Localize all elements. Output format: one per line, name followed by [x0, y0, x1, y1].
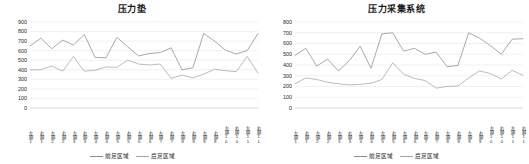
legend-pressure-acq: 前足区域 后足区域 — [264, 152, 529, 160]
x-axis-tick-label: 右脚10 — [499, 126, 504, 144]
y-axis-tick-label: 300 — [283, 73, 292, 79]
x-axis-tick-label: 左脚6 — [136, 131, 141, 144]
x-axis-tick-label: 右脚6 — [147, 131, 152, 144]
x-axis-tick-label: 右脚9 — [212, 131, 217, 144]
series-line-rearfoot — [295, 63, 523, 88]
x-axis-tick-label: 右脚3 — [347, 131, 352, 144]
x-axis-tick-label: 左脚7 — [158, 131, 163, 144]
y-axis-tick-label: 300 — [18, 76, 27, 82]
x-axis-tick-label: 右脚4 — [369, 131, 374, 144]
x-axis-tick-label: 左脚4 — [358, 131, 363, 144]
y-axis-tick-label: 500 — [283, 51, 292, 57]
x-axis-tick-label: 右脚5 — [125, 131, 130, 144]
y-axis-tick-label: 200 — [18, 86, 27, 92]
legend-swatch-forefoot-icon — [90, 156, 103, 157]
y-axis-tick-label: 700 — [283, 30, 292, 36]
series-line-rearfoot — [30, 56, 258, 78]
y-axis-tick-label: 400 — [18, 67, 27, 73]
legend-label-rearfoot: 后足区域 — [151, 152, 175, 160]
y-axis-tick-label: 100 — [18, 95, 27, 101]
x-axis-tick-label: 左脚10 — [223, 126, 228, 144]
y-axis-tick-label: 800 — [283, 20, 292, 25]
y-axis-tick-label: 400 — [283, 62, 292, 68]
x-axis-tick-label: 右脚3 — [82, 131, 87, 144]
chart-title-pressure-acq: 压力采集系统 — [264, 4, 529, 15]
x-axis-tick-label: 左脚1 — [293, 131, 298, 144]
legend-label-rearfoot: 后足区域 — [415, 152, 439, 160]
x-axis-tick-label: 左脚11 — [245, 126, 250, 144]
x-axis-tick-label: 右脚9 — [477, 131, 482, 144]
x-axis-tick-label: 左脚8 — [180, 131, 185, 144]
x-axis-tick-label: 右脚11 — [256, 126, 261, 144]
x-axis-tick-label: 右脚4 — [104, 131, 109, 144]
x-axis-tick-label: 左脚10 — [488, 126, 493, 144]
x-axis-tick-label: 左脚8 — [445, 131, 450, 144]
x-axis-tick-label: 右脚6 — [412, 131, 417, 144]
x-axis-tick-label: 右脚2 — [325, 131, 330, 144]
y-axis-tick-label: 900 — [18, 20, 27, 25]
chart-panel-pressure-acq: 压力采集系统 0100200300400500600700800 左脚1右脚1左… — [264, 0, 529, 164]
legend-swatch-rearfoot-icon — [400, 156, 413, 157]
x-axis-tick-label: 左脚3 — [71, 131, 76, 144]
y-axis-tick-label: 600 — [283, 40, 292, 46]
legend-label-forefoot: 前足区域 — [105, 152, 129, 160]
legend-label-forefoot: 前足区域 — [369, 152, 393, 160]
x-axis-tick-label: 左脚9 — [201, 131, 206, 144]
x-axis-tick-label: 左脚4 — [93, 131, 98, 144]
x-axis-labels-pressure-acq: 左脚1右脚1左脚2右脚2左脚3右脚3左脚4右脚4左脚5右脚5左脚6右脚6左脚7右… — [264, 110, 529, 144]
x-axis-tick-label: 右脚8 — [190, 131, 195, 144]
y-axis-tick-label: 700 — [18, 38, 27, 44]
x-axis-tick-label: 左脚2 — [314, 131, 319, 144]
x-axis-tick-label: 右脚10 — [234, 126, 239, 144]
line-chart-svg-pressure-acq: 0100200300400500600700800 — [264, 20, 529, 110]
charts-board: 压力垫 0100200300400500600700800900 左脚1右脚1左… — [0, 0, 529, 164]
x-axis-tick-label: 左脚11 — [510, 126, 515, 144]
legend-swatch-forefoot-icon — [354, 156, 367, 157]
x-axis-tick-label: 右脚1 — [303, 131, 308, 144]
x-axis-tick-label: 右脚11 — [521, 126, 526, 144]
plot-area-pressure-acq: 0100200300400500600700800 — [264, 20, 529, 110]
x-axis-labels-pressure-mat: 左脚1右脚1左脚2右脚2左脚3右脚3左脚4右脚4左脚5右脚5左脚6右脚6左脚7右… — [0, 110, 264, 144]
y-axis-tick-label: 100 — [283, 94, 292, 100]
x-axis-tick-label: 右脚1 — [38, 131, 43, 144]
y-axis-tick-label: 600 — [18, 48, 27, 54]
x-axis-tick-label: 右脚8 — [455, 131, 460, 144]
legend-item-rearfoot[interactable]: 后足区域 — [400, 152, 439, 160]
x-axis-tick-label: 右脚7 — [169, 131, 174, 144]
chart-title-pressure-mat: 压力垫 — [0, 4, 264, 15]
x-axis-tick-label: 左脚7 — [423, 131, 428, 144]
x-axis-tick-label: 左脚2 — [49, 131, 54, 144]
x-axis-tick-label: 右脚7 — [434, 131, 439, 144]
legend-swatch-rearfoot-icon — [136, 156, 149, 157]
legend-item-forefoot[interactable]: 前足区域 — [90, 152, 129, 160]
legend-pressure-mat: 前足区域 后足区域 — [0, 152, 264, 160]
x-axis-tick-label: 右脚2 — [60, 131, 65, 144]
x-axis-tick-label: 左脚9 — [466, 131, 471, 144]
y-axis-tick-label: 200 — [283, 83, 292, 89]
y-axis-tick-label: 500 — [18, 57, 27, 63]
x-axis-tick-label: 左脚5 — [379, 131, 384, 144]
x-axis-tick-label: 右脚5 — [390, 131, 395, 144]
x-axis-tick-label: 左脚1 — [28, 131, 33, 144]
x-axis-tick-label: 左脚3 — [336, 131, 341, 144]
legend-item-forefoot[interactable]: 前足区域 — [354, 152, 393, 160]
plot-area-pressure-mat: 0100200300400500600700800900 — [0, 20, 264, 110]
chart-panel-pressure-mat: 压力垫 0100200300400500600700800900 左脚1右脚1左… — [0, 0, 264, 164]
legend-item-rearfoot[interactable]: 后足区域 — [136, 152, 175, 160]
y-axis-tick-label: 800 — [18, 28, 27, 34]
line-chart-svg-pressure-mat: 0100200300400500600700800900 — [0, 20, 264, 110]
x-axis-tick-label: 左脚5 — [114, 131, 119, 144]
x-axis-tick-label: 左脚6 — [401, 131, 406, 144]
